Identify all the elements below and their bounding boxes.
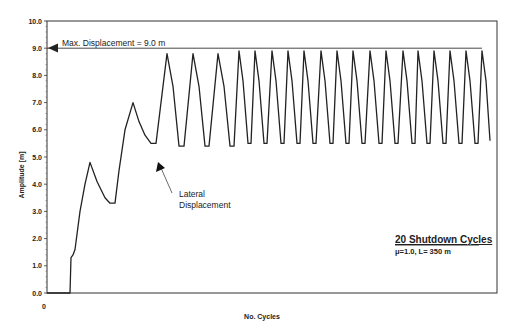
amplitude-series-line <box>47 51 490 293</box>
max-displacement-label: Max. Displacement = 9.0 m <box>62 38 165 48</box>
y-tick-label: 8.0 <box>32 72 42 79</box>
y-axis-title: Amplitude [m] <box>18 151 26 198</box>
lateral-arrow-shaft <box>161 168 172 193</box>
y-tick-label: 7.0 <box>32 99 42 106</box>
y-axis-ticks: 0.01.02.03.04.05.06.07.08.09.010.0 <box>28 18 47 297</box>
legend-title: 20 Shutdown Cycles <box>395 234 493 245</box>
lateral-arrow-head-icon <box>156 162 165 172</box>
y-tick-label: 6.0 <box>32 126 42 133</box>
x-axis-title: No. Cycles <box>244 313 280 321</box>
x-tick-label: 0 <box>42 303 46 310</box>
y-tick-label: 5.0 <box>32 154 42 161</box>
y-tick-label: 2.0 <box>32 235 42 242</box>
chart: 0.01.02.03.04.05.06.07.08.09.010.0 0 No.… <box>0 0 512 330</box>
y-tick-label: 9.0 <box>32 45 42 52</box>
lateral-displacement-label-line2: Displacement <box>179 200 231 210</box>
y-tick-label: 0.0 <box>32 290 42 297</box>
y-tick-label: 1.0 <box>32 262 42 269</box>
lateral-displacement-label-line1: Lateral <box>179 189 205 199</box>
max-displacement-arrow-icon <box>48 44 58 53</box>
y-tick-label: 3.0 <box>32 208 42 215</box>
legend-subtitle: μ=1.0, L= 350 m <box>395 247 451 256</box>
y-tick-label: 10.0 <box>28 18 42 25</box>
y-tick-label: 4.0 <box>32 181 42 188</box>
